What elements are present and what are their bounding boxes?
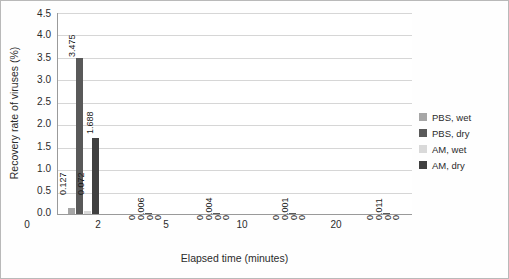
gridline-3.0	[58, 80, 412, 81]
bar-label-zero-2a: 0	[196, 215, 205, 220]
chart-frame: Recovery rate of viruses (%) 0.0 0.5 1.0…	[0, 0, 509, 279]
gridline-2.5	[58, 103, 412, 104]
legend-item-am-dry: AM, dry	[419, 157, 505, 173]
y-tick-9: 4.5	[17, 9, 51, 19]
bar-pbs-dry-2	[213, 213, 220, 214]
bar-label-pbs-dry-0: 3.475	[68, 34, 77, 57]
legend-label-pbs-dry: PBS, dry	[432, 128, 470, 139]
legend: PBS, wet PBS, dry AM, wet AM, dry	[419, 109, 505, 173]
bar-label-am-wet-0: 0.072	[77, 172, 86, 195]
bar-label-zero-3c: 0	[298, 215, 307, 220]
bar-label-am-dry-0: 1.688	[86, 111, 95, 134]
plot-area: 0.127 3.475 0.072 1.688 0.006 0 0 0 0.00…	[57, 13, 412, 215]
gridline-4.0	[58, 35, 412, 36]
bar-label-zero-3a: 0	[272, 215, 281, 220]
y-tick-7: 3.5	[17, 53, 51, 63]
y-axis-title-text: Recovery rate of viruses (%)	[8, 12, 20, 214]
y-axis-title: Recovery rate of viruses (%)	[7, 13, 21, 215]
y-tick-4: 2.0	[17, 119, 51, 129]
y-tick-5: 2.5	[17, 97, 51, 107]
x-tick-10: 10	[222, 220, 262, 230]
legend-label-am-dry: AM, dry	[432, 160, 465, 171]
legend-item-am-wet: AM, wet	[419, 141, 505, 157]
gridline-1.0	[58, 170, 412, 171]
y-tick-0: 0.0	[17, 208, 51, 218]
legend-item-pbs-dry: PBS, dry	[419, 125, 505, 141]
gridline-0.5	[58, 193, 412, 194]
bar-label-pbs-wet-0: 0.127	[59, 172, 68, 195]
x-tick-5: 5	[146, 220, 186, 230]
legend-swatch-pbs-wet	[419, 113, 427, 121]
y-tick-8: 4.0	[17, 30, 51, 40]
legend-label-pbs-wet: PBS, wet	[432, 112, 471, 123]
y-tick-6: 3.0	[17, 75, 51, 85]
gridline-2.0	[58, 125, 412, 126]
y-tick-3: 1.5	[17, 142, 51, 152]
legend-item-pbs-wet: PBS, wet	[419, 109, 505, 125]
legend-swatch-pbs-dry	[419, 129, 427, 137]
gridline-1.5	[58, 148, 412, 149]
bar-pbs-dry-1	[145, 213, 152, 214]
gridline-4.5	[58, 13, 412, 14]
legend-swatch-am-dry	[419, 161, 427, 169]
bar-pbs-dry-4	[383, 213, 390, 214]
x-tick-20: 20	[316, 220, 356, 230]
gridline-3.5	[58, 58, 412, 59]
legend-label-am-wet: AM, wet	[432, 144, 466, 155]
x-tick-0: 0	[7, 220, 47, 230]
x-axis-title: Elapsed time (minutes)	[57, 252, 412, 264]
bar-am-wet-0	[84, 211, 91, 214]
y-tick-1: 0.5	[17, 186, 51, 196]
bar-label-zero-1a: 0	[128, 215, 137, 220]
y-tick-2: 1.0	[17, 164, 51, 174]
x-tick-2: 2	[78, 220, 118, 230]
bar-am-dry-0	[92, 138, 99, 214]
bar-pbs-wet-0	[68, 208, 75, 214]
bar-label-zero-4a: 0	[366, 215, 375, 220]
legend-swatch-am-wet	[419, 145, 427, 153]
bar-label-zero-4c: 0	[392, 215, 401, 220]
bar-pbs-dry-3	[289, 213, 296, 214]
